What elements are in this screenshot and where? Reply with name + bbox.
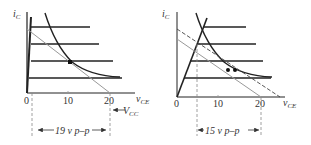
ac-load-line bbox=[177, 29, 280, 97]
x-axis-label: vCE bbox=[283, 97, 297, 110]
swing-label: 19 v p–p bbox=[55, 125, 89, 136]
q-point bbox=[233, 68, 237, 72]
swing-label: 15 v p–p bbox=[205, 125, 239, 136]
y-axis-label: iC bbox=[162, 8, 170, 21]
tick-label: 0 bbox=[174, 98, 179, 109]
transistor-load-line-diagrams: 0 10 20 iC vCE VCC 19 v p–p bbox=[0, 0, 311, 145]
max-power-hyperbola bbox=[45, 13, 120, 77]
q-point bbox=[68, 60, 72, 64]
vcc-label: VCC bbox=[123, 105, 139, 118]
tick-label: 20 bbox=[255, 98, 265, 109]
tick-label: 10 bbox=[63, 95, 73, 106]
x-axis-label: vCE bbox=[136, 93, 150, 106]
q-point bbox=[226, 68, 230, 72]
tick-label: 10 bbox=[213, 98, 223, 109]
y-axis-label: iC bbox=[13, 8, 21, 21]
tick-label: 20 bbox=[104, 95, 114, 106]
tick-label: 0 bbox=[24, 95, 29, 106]
max-power-hyperbola bbox=[196, 13, 272, 77]
left-diagram: 0 10 20 iC vCE VCC 19 v p–p bbox=[13, 8, 150, 136]
right-diagram: 0 10 20 iC vCE 15 v p–p bbox=[162, 8, 297, 136]
load-line bbox=[177, 39, 261, 97]
